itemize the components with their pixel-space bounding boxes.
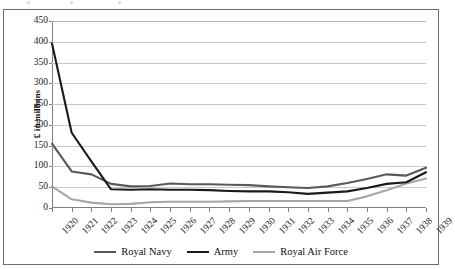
- x-tick-mark: [190, 208, 191, 212]
- x-tick-mark: [72, 208, 73, 212]
- x-tick-label: 1932: [297, 216, 317, 236]
- x-tick-label: 1931: [277, 216, 297, 236]
- x-tick-mark: [288, 208, 289, 212]
- chart-figure: £ in millions 05010015020025030035040045…: [3, 9, 439, 265]
- y-tick-label: 350: [34, 58, 48, 68]
- x-tick-label: 1939: [434, 216, 454, 236]
- x-tick-mark: [131, 208, 132, 212]
- legend-item-army[interactable]: Army: [187, 246, 239, 257]
- x-tick-label: 1928: [218, 216, 238, 236]
- x-tick-mark: [229, 208, 230, 212]
- x-tick-label: 1925: [159, 216, 179, 236]
- x-tick-label: 1929: [238, 216, 258, 236]
- x-tick-mark: [52, 208, 53, 212]
- x-tick-mark: [387, 208, 388, 212]
- scan-artifact: [27, 1, 30, 4]
- legend-swatch: [187, 251, 209, 253]
- x-tick-mark: [111, 208, 112, 212]
- x-tick-mark: [328, 208, 329, 212]
- series-lines: [52, 21, 426, 208]
- x-tick-label: 1922: [100, 216, 120, 236]
- series-line-royal-navy: [52, 144, 426, 188]
- x-tick-mark: [170, 208, 171, 212]
- x-tick-label: 1920: [60, 216, 80, 236]
- x-tick-label: 1937: [395, 216, 415, 236]
- y-tick-label: 250: [34, 99, 48, 109]
- legend-swatch: [94, 251, 116, 253]
- y-tick-label: 400: [34, 37, 48, 47]
- x-tick-mark: [347, 208, 348, 212]
- x-tick-mark: [367, 208, 368, 212]
- x-tick-label: 1927: [198, 216, 218, 236]
- x-tick-label: 1935: [356, 216, 376, 236]
- plot-area: 050100150200250300350400450 192019211922…: [52, 21, 426, 208]
- x-tick-label: 1923: [119, 216, 139, 236]
- x-tick-label: 1934: [336, 216, 356, 236]
- y-tick-label: 150: [34, 141, 48, 151]
- x-tick-label: 1938: [415, 216, 435, 236]
- x-tick-label: 1933: [316, 216, 336, 236]
- y-tick-label: 200: [34, 120, 48, 130]
- y-tick-label: 450: [34, 16, 48, 26]
- x-tick-mark: [406, 208, 407, 212]
- legend-swatch: [253, 251, 275, 253]
- y-tick-label: 50: [39, 182, 49, 192]
- x-tick-mark: [308, 208, 309, 212]
- y-tick-label: 0: [43, 203, 48, 213]
- chart-legend: Royal NavyArmyRoyal Air Force: [4, 246, 438, 257]
- y-tick-label: 100: [34, 162, 48, 172]
- scan-artifact: [118, 1, 121, 4]
- x-tick-mark: [269, 208, 270, 212]
- legend-item-royal-navy[interactable]: Royal Navy: [94, 246, 171, 257]
- legend-label: Army: [214, 246, 239, 257]
- y-tick-label: 300: [34, 79, 48, 89]
- x-tick-label: 1936: [375, 216, 395, 236]
- legend-label: Royal Air Force: [280, 246, 348, 257]
- x-tick-label: 1930: [257, 216, 277, 236]
- series-line-army: [52, 43, 426, 193]
- legend-item-royal-air-force[interactable]: Royal Air Force: [253, 246, 348, 257]
- x-tick-label: 1924: [139, 216, 159, 236]
- x-tick-mark: [91, 208, 92, 212]
- scan-artifact: [70, 1, 73, 4]
- x-tick-label: 1926: [179, 216, 199, 236]
- y-axis-title: £ in millions: [32, 90, 42, 138]
- x-tick-mark: [426, 208, 427, 212]
- legend-label: Royal Navy: [121, 246, 171, 257]
- x-tick-mark: [150, 208, 151, 212]
- x-tick-mark: [249, 208, 250, 212]
- x-tick-label: 1921: [80, 216, 100, 236]
- x-tick-mark: [209, 208, 210, 212]
